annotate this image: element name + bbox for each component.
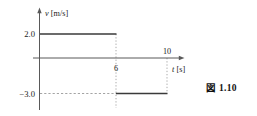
y-axis-units: [m/s] xyxy=(51,9,69,18)
y-axis-label: v[m/s] xyxy=(45,9,68,18)
velocity-step-curve xyxy=(40,34,168,94)
velocity-time-chart: v[m/s] t[s] 2.0 −3.0 6 10 xyxy=(0,0,257,116)
figure-caption: 図 1.10 xyxy=(206,80,237,94)
axes-group xyxy=(33,8,185,111)
figure-container: v[m/s] t[s] 2.0 −3.0 6 10 図 1.10 xyxy=(0,0,257,116)
y-tick-label-minus3: −3.0 xyxy=(19,89,35,99)
x-axis-units: [s] xyxy=(176,65,185,74)
x-axis-arrow-icon xyxy=(179,56,185,60)
x-tick-label-6: 6 xyxy=(114,64,118,73)
y-axis-symbol: v xyxy=(45,9,49,18)
y-tick-label-2: 2.0 xyxy=(24,29,35,39)
x-tick-label-10: 10 xyxy=(163,47,171,56)
y-axis-arrow-icon xyxy=(37,8,41,14)
x-axis-label: t[s] xyxy=(172,65,185,74)
x-axis-symbol: t xyxy=(172,65,175,74)
guide-lines xyxy=(40,34,167,108)
